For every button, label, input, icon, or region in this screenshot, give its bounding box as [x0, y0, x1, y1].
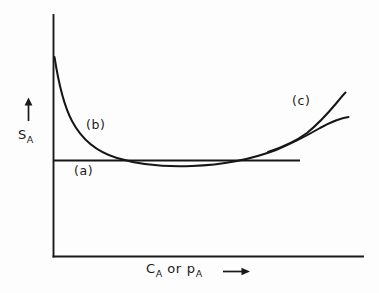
figure-root: (a) (b) (c) SA CA or pA: [0, 0, 379, 293]
plot-canvas: [0, 0, 379, 293]
y-axis-label-subscript: A: [27, 134, 34, 145]
right-arrow-icon: [223, 268, 250, 275]
y-axis-label: SA: [18, 128, 33, 144]
curve-label-c: (c): [292, 95, 310, 108]
x-axis-label-part1-base: C: [146, 261, 156, 276]
x-axis-label-part2-base: p: [187, 261, 196, 276]
y-axis-label-base: S: [18, 127, 27, 142]
curve-label-a: (a): [74, 165, 93, 178]
x-axis-label-conjunction: or: [167, 261, 182, 276]
curve-b-main: [55, 57, 349, 166]
curve-label-b: (b): [86, 119, 106, 132]
x-axis-label: CA or pA: [146, 262, 202, 278]
x-axis-label-part2-subscript: A: [196, 268, 203, 279]
y-axis-label-group: SA: [16, 96, 50, 156]
